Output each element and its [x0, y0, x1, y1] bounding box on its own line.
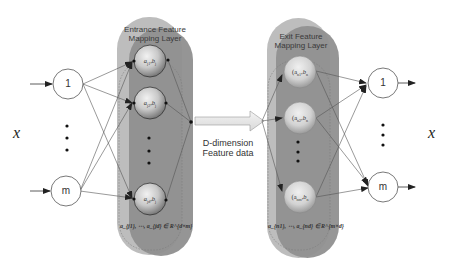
input-node-1-label: 1: [55, 78, 81, 89]
input-node-m-label: m: [53, 185, 79, 196]
output-variable-x: x: [428, 124, 435, 142]
input-variable-x: x: [13, 124, 20, 142]
exit-title-line2: Mapping Layer: [266, 42, 336, 51]
entrance-cell-2-label: aj2,bj: [133, 99, 167, 108]
exit-cell-1-label: (an1,bn: [283, 68, 317, 77]
entrance-layer-title: Entrance Feature Mapping Layer: [110, 26, 200, 44]
feature-data-label: D-dimension Feature data: [196, 139, 260, 159]
output-ellipsis-icon: [381, 123, 384, 146]
entrance-cell-3-label: ajd,bj: [133, 195, 167, 204]
output-node-1-label: 1: [370, 77, 396, 88]
exit-cell-2-label: (an2,bn: [283, 114, 317, 123]
exit-formula: a_{n1}, ⋯, a_{nd} ∈ R^{m×d}: [268, 222, 344, 229]
exit-cell-3-label: (anm,bn: [283, 193, 317, 202]
output-node-m-label: m: [370, 181, 396, 192]
entrance-cell-1-label: aj1,bj: [133, 57, 167, 66]
feature-line2: Feature data: [196, 149, 260, 159]
input-ellipsis-icon: [65, 124, 68, 151]
transfer-arrow: [195, 111, 264, 131]
entrance-formula: a_{j1}, ⋯, a_{jd} ∈ R^{d×m}: [120, 222, 192, 229]
exit-layer-title: Exit Feature Mapping Layer: [266, 33, 336, 51]
merge-point: [189, 120, 193, 124]
entrance-title-line2: Mapping Layer: [110, 35, 200, 44]
